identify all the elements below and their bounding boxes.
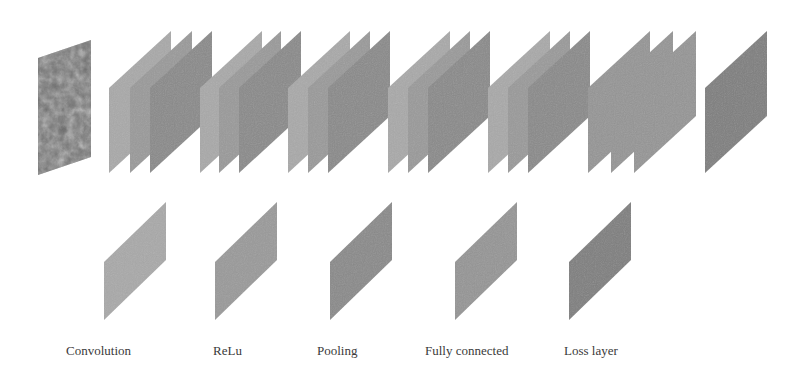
input-image [38, 40, 91, 175]
legend-swatch-loss-layer [569, 202, 631, 320]
layer-group-1 [109, 31, 212, 173]
layer-legend [104, 202, 631, 320]
label-relu: ReLu [213, 343, 242, 359]
layer-group-6 [588, 31, 696, 173]
loss-layer-panel [705, 31, 767, 173]
label-convolution: Convolution [66, 343, 131, 359]
layer-group-3 [288, 31, 390, 173]
input-image-panel [38, 40, 91, 175]
layer-pipeline [109, 31, 767, 173]
cnn-diagram [0, 0, 804, 374]
layer-group-4 [388, 31, 490, 173]
label-loss-layer: Loss layer [564, 343, 618, 359]
layer-group-7 [705, 31, 767, 173]
label-fully-connected: Fully connected [425, 343, 508, 359]
layer-group-5 [488, 31, 590, 173]
legend-swatch-relu [215, 202, 277, 320]
label-pooling: Pooling [317, 343, 357, 359]
legend-swatch-convolution [104, 202, 166, 320]
layer-group-2 [200, 31, 301, 173]
legend-swatch-fully-connected [455, 202, 517, 320]
legend-swatch-pooling [330, 202, 392, 320]
